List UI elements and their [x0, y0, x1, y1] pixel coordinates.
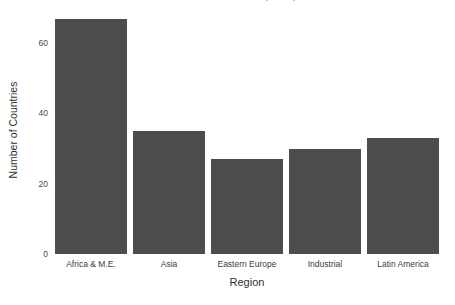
x-tick-label: Eastern Europe: [217, 259, 276, 269]
bar: [55, 19, 128, 254]
x-tick-label: Industrial: [308, 259, 343, 269]
y-tick-label: 0: [43, 249, 48, 259]
chart-title: Number of Countries by Region: [0, 0, 455, 1]
x-axis-title: Region: [52, 276, 442, 288]
bar: [289, 149, 362, 254]
y-tick-label: 40: [39, 108, 48, 118]
y-axis-tick-labels: 0204060: [26, 0, 48, 305]
bar: [133, 131, 206, 254]
bar-chart: Number of Countries by Region Number of …: [0, 0, 455, 305]
x-tick-label: Latin America: [377, 259, 429, 269]
x-tick-label: Africa & M.E.: [66, 259, 116, 269]
x-axis-tick-labels: Africa & M.E.AsiaEastern EuropeIndustria…: [52, 259, 442, 275]
y-axis-title-label: Number of Countries: [7, 82, 19, 179]
x-tick-label: Asia: [161, 259, 178, 269]
y-tick-label: 20: [39, 179, 48, 189]
bar: [367, 138, 440, 254]
plot-panel: [52, 8, 442, 254]
y-axis-title: Number of Countries: [6, 0, 20, 260]
y-tick-label: 60: [39, 38, 48, 48]
bar: [211, 159, 284, 254]
bar-series: [52, 8, 442, 254]
